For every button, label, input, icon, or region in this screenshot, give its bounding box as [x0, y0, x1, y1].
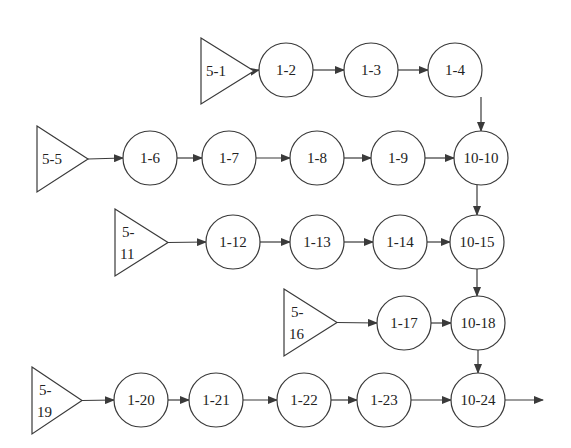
node-label: 1-20: [127, 392, 155, 408]
node-label: 10-24: [461, 392, 496, 408]
node-label: 1-8: [307, 150, 327, 166]
node-1-12: 1-12: [206, 215, 260, 269]
node-10-18: 10-18: [451, 296, 505, 350]
node-1-2: 1-2: [259, 43, 313, 97]
node-label: 1-13: [303, 234, 331, 250]
node-1-8: 1-8: [290, 131, 344, 185]
node-label: 10-18: [461, 315, 496, 331]
node-label: 1-14: [386, 234, 414, 250]
source-triangle-5-5: 5-5: [37, 126, 88, 192]
node-label: 1-7: [219, 150, 239, 166]
edge-5-19-to-1-20: [82, 400, 114, 401]
edge-5-16-to-1-17: [337, 323, 377, 324]
node-label: 1-3: [361, 62, 381, 78]
node-1-14: 1-14: [373, 215, 427, 269]
edge-5-5-to-1-6: [88, 158, 123, 159]
node-label: 10-15: [460, 234, 495, 250]
node-label: 1-21: [202, 392, 230, 408]
node-1-3: 1-3: [344, 43, 398, 97]
source-label: 16: [289, 326, 305, 342]
node-1-21: 1-21: [189, 373, 243, 427]
source-triangle-5-19: 5-19: [32, 367, 82, 434]
node-1-23: 1-23: [357, 373, 411, 427]
node-label: 10-10: [464, 150, 499, 166]
node-label: 1-2: [276, 62, 296, 78]
process-nodes: 1-21-31-41-61-71-81-910-101-121-131-1410…: [114, 43, 508, 427]
source-triangle-5-16: 5-16: [284, 289, 337, 356]
node-1-13: 1-13: [290, 215, 344, 269]
node-1-20: 1-20: [114, 373, 168, 427]
source-label: 5-5: [42, 151, 62, 167]
source-triangle-5-11: 5-11: [115, 209, 168, 276]
source-label: 5-: [39, 382, 52, 398]
source-label: 5-: [122, 224, 135, 240]
node-1-9: 1-9: [371, 131, 425, 185]
source-label: 19: [37, 404, 52, 420]
node-label: 1-4: [445, 62, 465, 78]
source-label: 5-1: [206, 63, 226, 79]
node-1-4: 1-4: [428, 43, 482, 97]
flow-diagram: 5-15-55-115-165-19 1-21-31-41-61-71-81-9…: [0, 0, 571, 448]
node-label: 1-22: [290, 392, 318, 408]
source-label: 5-: [291, 304, 304, 320]
node-10-24: 10-24: [451, 373, 505, 427]
node-label: 1-9: [388, 150, 408, 166]
node-1-17: 1-17: [377, 296, 431, 350]
node-label: 1-12: [219, 234, 247, 250]
node-label: 1-6: [140, 150, 160, 166]
node-10-15: 10-15: [450, 215, 504, 269]
node-1-7: 1-7: [202, 131, 256, 185]
node-10-10: 10-10: [454, 131, 508, 185]
node-label: 1-17: [390, 315, 418, 331]
source-label: 11: [120, 246, 134, 262]
node-label: 1-23: [370, 392, 398, 408]
edge-5-11-to-1-12: [168, 242, 206, 243]
source-triangle-5-1: 5-1: [201, 38, 254, 104]
node-1-6: 1-6: [123, 131, 177, 185]
node-1-22: 1-22: [277, 373, 331, 427]
